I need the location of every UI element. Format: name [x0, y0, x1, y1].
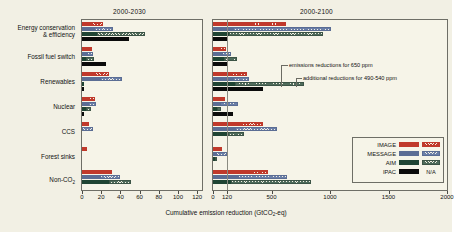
bar-base-ipac [213, 112, 233, 116]
reference-line-120 [227, 20, 228, 190]
bar-aim [82, 180, 202, 184]
bar-image [82, 97, 202, 101]
bar-additional-aim [86, 107, 91, 111]
legend-item-image[interactable]: IMAGE [356, 140, 440, 149]
category-label-1: Fossil fuel switch [0, 53, 75, 60]
bar-additional-image [252, 170, 268, 174]
bar-image [213, 22, 447, 26]
legend-note-ipac: N/A [422, 169, 440, 175]
legend-swatch-solid-aim [399, 160, 419, 165]
legend-swatch-solid-message [399, 151, 419, 156]
category-label-6: Non-CO2 [0, 176, 75, 186]
bar-ipac [82, 37, 202, 41]
bar-aim [213, 132, 447, 136]
bar-aim [82, 107, 202, 111]
bar-base-ipac [82, 37, 129, 41]
bar-additional-aim [109, 180, 131, 184]
x-tick-label: 100 [173, 194, 183, 200]
bar-additional-aim [229, 32, 323, 36]
bar-additional-aim [235, 82, 304, 86]
bar-base-ipac [82, 62, 106, 66]
bar-additional-message [238, 175, 287, 179]
bar-base-message [82, 175, 100, 179]
x-axis-title-subscript: 2 [273, 212, 276, 217]
x-tick-label: 60 [136, 194, 143, 200]
bar-aim [213, 32, 447, 36]
bar-aim [82, 82, 202, 86]
bar-message [213, 127, 447, 131]
bar-additional-message [233, 77, 249, 81]
bar-base-ipac [213, 62, 228, 66]
bar-base-ipac [82, 112, 84, 116]
bar-base-message [213, 127, 235, 131]
bar-additional-aim [215, 157, 217, 161]
legend-item-ipac[interactable]: IPACN/A [356, 167, 440, 176]
bar-additional-message [82, 127, 93, 131]
bar-image [82, 72, 202, 76]
plot-area-2000-2030 [81, 19, 203, 191]
annotation-leader-horizontal-0 [281, 65, 288, 66]
legend-label-message: MESSAGE [367, 151, 396, 157]
legend-swatch-solid-ipac [399, 169, 419, 174]
bar-message [82, 127, 202, 131]
bar-base-image [82, 97, 89, 101]
bar-ipac [213, 112, 447, 116]
bar-base-image [213, 147, 220, 151]
x-tick-label: 1500 [382, 194, 395, 200]
bar-image [213, 97, 447, 101]
bar-additional-image [89, 97, 96, 101]
bar-additional-image [90, 47, 92, 51]
bar-base-message [213, 102, 220, 106]
bar-base-image [213, 170, 252, 174]
bar-additional-image [105, 170, 112, 174]
bar-base-image [213, 22, 245, 26]
x-tick-label: 0 [211, 194, 214, 200]
bar-aim [213, 82, 447, 86]
bar-additional-message [216, 152, 227, 156]
x-tick-label: 120 [192, 194, 202, 200]
legend-swatch-hatch-image [422, 142, 440, 147]
bar-message [213, 52, 447, 56]
bar-additional-message [220, 102, 238, 106]
bar-aim [82, 32, 202, 36]
x-axis-left: 020406080100120 [81, 191, 203, 205]
legend-item-message[interactable]: MESSAGE [356, 149, 440, 158]
bar-image [82, 122, 202, 126]
bar-image [82, 147, 202, 151]
bar-additional-aim [231, 180, 312, 184]
panel-title-right: 2000-2100 [300, 8, 333, 15]
annotation-text-0: emissions reductions for 650 ppm [289, 62, 373, 68]
bar-base-aim [213, 57, 224, 61]
legend-item-aim[interactable]: AIM [356, 158, 440, 167]
bar-base-aim [82, 180, 109, 184]
bar-base-image [82, 147, 87, 151]
x-tick-label: 0 [80, 194, 83, 200]
category-axis-labels: Energy conservation& efficiencyFossil fu… [0, 18, 79, 188]
legend: IMAGEMESSAGEAIMIPACN/A [352, 137, 444, 183]
x-tick-label: 120 [222, 194, 232, 200]
bar-additional-message [88, 102, 97, 106]
category-label-2: Renewables [0, 78, 75, 85]
bar-base-ipac [213, 37, 227, 41]
category-label-3: Nuclear [0, 103, 75, 110]
bar-base-message [213, 52, 222, 56]
bar-message [82, 27, 202, 31]
legend-label-aim: AIM [386, 160, 396, 166]
bar-additional-image [220, 47, 226, 51]
bar-image [213, 122, 447, 126]
bar-message [82, 102, 202, 106]
bar-message [213, 102, 447, 106]
bar-base-message [82, 77, 100, 81]
bar-additional-image [92, 22, 104, 26]
bar-ipac [82, 87, 202, 91]
category-label-0: Energy conservation& efficiency [0, 24, 75, 38]
bar-message [213, 27, 447, 31]
bar-message [82, 52, 202, 56]
annotation-text-1: additional reductions for 490-540 ppm [303, 75, 397, 81]
bar-base-image [213, 47, 220, 51]
bar-additional-image [245, 22, 286, 26]
bar-additional-image [95, 72, 108, 76]
bar-base-aim [213, 82, 235, 86]
bar-base-image [82, 72, 95, 76]
bar-image [82, 22, 202, 26]
